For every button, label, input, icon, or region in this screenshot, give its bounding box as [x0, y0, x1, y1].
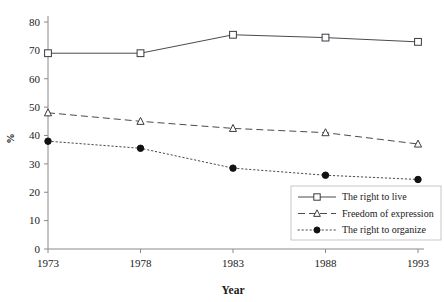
x-axis-labels: 19731978198319881993 — [37, 257, 430, 269]
y-tick-label: 30 — [29, 158, 41, 170]
marker-filled-circle — [415, 176, 421, 182]
marker-open-square — [314, 194, 320, 200]
y-tick-label: 70 — [29, 44, 41, 56]
line-chart: 01020304050607080 19731978198319881993 T… — [0, 0, 444, 302]
y-tick-label: 10 — [29, 214, 41, 226]
marker-open-square — [137, 50, 144, 57]
marker-open-square — [45, 50, 52, 57]
x-tick-label: 1973 — [37, 257, 60, 269]
legend-label: Freedom of expression — [342, 208, 434, 219]
legend-item-2[interactable]: Freedom of expression — [298, 208, 434, 219]
series-2 — [44, 109, 421, 147]
marker-filled-circle — [230, 165, 236, 171]
legend-label: The right to live — [342, 191, 407, 202]
marker-filled-circle — [45, 138, 51, 144]
marker-open-triangle — [229, 124, 236, 131]
series-3 — [45, 138, 421, 183]
marker-open-square — [230, 31, 237, 38]
marker-filled-circle — [314, 227, 320, 233]
x-axis-tick-group — [48, 249, 418, 253]
marker-filled-circle — [137, 145, 143, 151]
y-tick-label: 50 — [29, 101, 41, 113]
marker-filled-circle — [322, 172, 328, 178]
legend-label: The right to organize — [342, 224, 427, 235]
series-1 — [45, 31, 422, 56]
marker-open-triangle — [44, 109, 51, 116]
y-axis-labels: 01020304050607080 — [29, 16, 41, 255]
marker-open-square — [322, 34, 329, 41]
x-tick-label: 1983 — [222, 257, 245, 269]
data-series-group — [44, 31, 421, 182]
marker-open-square — [415, 38, 422, 45]
y-tick-label: 40 — [29, 129, 41, 141]
y-tick-label: 80 — [29, 16, 41, 28]
legend-item-1[interactable]: The right to live — [298, 191, 407, 202]
legend-item-3[interactable]: The right to organize — [298, 224, 427, 235]
x-tick-label: 1978 — [130, 257, 153, 269]
y-tick-label: 20 — [29, 186, 41, 198]
chart-legend: The right to liveFreedom of expressionTh… — [291, 186, 441, 240]
y-tick-label: 60 — [29, 73, 41, 85]
x-tick-label: 1988 — [315, 257, 338, 269]
y-axis-title: % — [5, 133, 16, 144]
x-axis-title: Year — [222, 284, 245, 296]
chart-container: 01020304050607080 19731978198319881993 T… — [0, 0, 444, 302]
x-tick-label: 1993 — [407, 257, 430, 269]
y-tick-label: 0 — [35, 243, 41, 255]
